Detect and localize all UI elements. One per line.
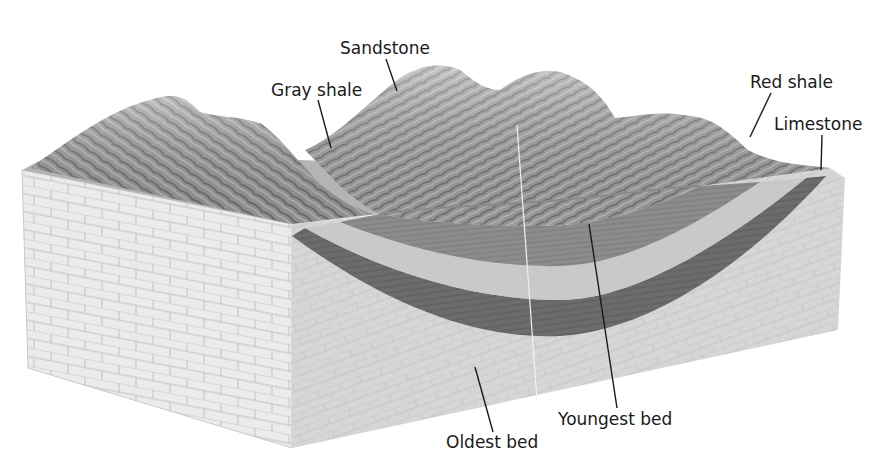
leader-limestone [821,135,822,170]
diagram-artwork [0,0,892,473]
label-gray-shale: Gray shale [271,82,362,99]
leader-red-shale [750,93,771,137]
label-limestone: Limestone [774,116,862,133]
label-red-shale: Red shale [750,74,833,91]
label-oldest-bed: Oldest bed [446,434,538,451]
syncline-block-diagram: Sandstone Gray shale Red shale Limestone… [0,0,892,473]
label-sandstone: Sandstone [340,40,430,57]
label-youngest-bed: Youngest bed [558,411,672,428]
